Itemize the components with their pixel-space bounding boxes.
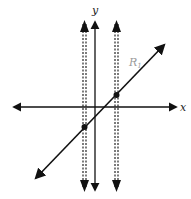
dashed-vertical-line-left <box>80 20 89 192</box>
dashed-vertical-line-right <box>112 20 121 192</box>
x-axis-label: x <box>180 101 187 114</box>
line-r1-label: R1 <box>128 56 142 70</box>
coordinate-diagram: y x R1 <box>0 0 191 199</box>
line-r1 <box>36 45 164 178</box>
intersection-point-left <box>82 124 88 130</box>
y-axis-label: y <box>91 4 99 17</box>
intersection-point-right <box>114 92 120 98</box>
